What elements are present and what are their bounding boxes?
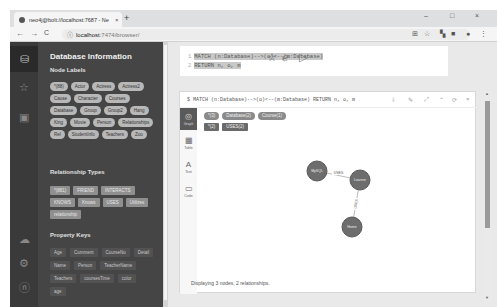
tab-close-icon[interactable]: × bbox=[115, 17, 119, 23]
legend-node-chip[interactable]: Database(2) bbox=[222, 112, 255, 120]
collapse-icon[interactable]: ⌃ bbox=[439, 96, 444, 103]
node-label-chip[interactable]: Hang bbox=[130, 106, 149, 115]
graph-icon: ◎ bbox=[185, 112, 192, 121]
new-tab-button[interactable]: + bbox=[124, 13, 129, 23]
favorites-icon[interactable]: ☆ bbox=[10, 74, 38, 100]
rel-type-chip[interactable]: Utilizes bbox=[126, 198, 149, 207]
node-label-chip[interactable]: Teachers bbox=[102, 130, 128, 139]
bookmark-star-icon[interactable]: ☆ bbox=[424, 30, 430, 38]
node-label-chip[interactable]: Person bbox=[93, 118, 115, 127]
property-key-chip[interactable]: age bbox=[50, 287, 66, 296]
extension-icon[interactable]: ▚ bbox=[440, 30, 445, 38]
legend-rel-chip[interactable]: USES(2) bbox=[222, 123, 248, 131]
close-frame-icon[interactable]: × bbox=[466, 96, 470, 102]
pin-icon[interactable]: ⤓ bbox=[392, 96, 395, 103]
legend-rel-chip[interactable]: *(2) bbox=[204, 123, 219, 131]
editor-line: 2RETURN n, o, m bbox=[188, 62, 241, 69]
tab-code[interactable]: ▭ Code bbox=[180, 180, 197, 202]
icon-sidebar: ⛁ ☆ ▣ ☁ ⚙ ⓝ bbox=[10, 42, 38, 307]
url-text: localhost:7474/browser/ bbox=[76, 32, 139, 38]
main-scroll-thumb[interactable] bbox=[485, 101, 490, 228]
back-button[interactable]: ← bbox=[16, 29, 24, 38]
node-label-chip[interactable]: Group2 bbox=[104, 106, 127, 115]
translate-icon[interactable]: ⊞ bbox=[412, 30, 418, 38]
node-label-chip[interactable]: Group bbox=[80, 106, 101, 115]
property-key-chip[interactable]: coursesTime bbox=[80, 274, 114, 283]
rel-type-chip[interactable]: USES bbox=[103, 198, 123, 207]
property-key-chip[interactable]: Person bbox=[74, 261, 96, 270]
rel-type-chip[interactable]: KNOWS bbox=[50, 198, 75, 207]
address-bar[interactable]: ⓘ localhost:7474/browser/ bbox=[62, 29, 470, 40]
node-label-chip[interactable]: Cause bbox=[50, 94, 71, 103]
reading-list-icon[interactable]: ■ bbox=[451, 30, 455, 37]
cloud-sync-icon[interactable]: ☁ bbox=[10, 226, 38, 252]
legend-node-chip[interactable]: *(3) bbox=[204, 112, 219, 120]
account-icon[interactable]: ● bbox=[466, 30, 470, 37]
neo4j-browser-app: ⛁ ☆ ▣ ☁ ⚙ ⓝ Database Information Node La… bbox=[10, 42, 497, 307]
legend-node-chip[interactable]: Course(1) bbox=[258, 112, 286, 120]
property-key-chip[interactable]: Name bbox=[50, 261, 70, 270]
rel-type-chip[interactable]: INTERACTS bbox=[101, 186, 135, 195]
view-tabs: ◎ Graph ▦ Table A Text ▭ Code bbox=[180, 108, 197, 294]
property-key-chip[interactable]: Comment bbox=[70, 248, 98, 257]
property-keys-list: Age Comment CourseNo Detail Name Person … bbox=[50, 248, 155, 296]
maximize-button[interactable]: □ bbox=[450, 12, 454, 19]
node-label-chip[interactable]: King bbox=[50, 118, 67, 127]
drawer-scroll-thumb[interactable] bbox=[164, 45, 167, 300]
minimize-button[interactable]: – bbox=[424, 12, 428, 19]
node-label-chip[interactable]: Courses bbox=[105, 94, 130, 103]
node-label-chip[interactable]: StudentInfo bbox=[68, 130, 99, 139]
result-command[interactable]: $ MATCH (n:Database)-->(o)<--(m:Database… bbox=[187, 97, 355, 103]
node-label-chip[interactable]: Actress2 bbox=[118, 82, 144, 91]
menu-icon[interactable]: ⋮ bbox=[480, 30, 487, 38]
run-query-icon[interactable]: ▷ bbox=[299, 51, 307, 64]
tab-text[interactable]: A Text bbox=[180, 156, 197, 178]
property-key-chip[interactable]: CourseNo bbox=[102, 248, 130, 257]
settings-icon[interactable]: ⚙ bbox=[10, 250, 38, 276]
graph-canvas[interactable]: USES USES MySQL Learner Home bbox=[197, 132, 477, 270]
property-key-chip[interactable]: Detail bbox=[134, 248, 154, 257]
node-label-chip[interactable]: Database bbox=[50, 106, 77, 115]
node-label-chip[interactable]: Actor bbox=[71, 82, 90, 91]
documents-icon[interactable]: ▣ bbox=[10, 104, 38, 130]
node-label-chip[interactable]: Movie bbox=[70, 118, 90, 127]
rel-type-chip[interactable]: FRIEND bbox=[73, 186, 98, 195]
node-label-chip[interactable]: Rel bbox=[50, 130, 65, 139]
property-key-chip[interactable]: Age bbox=[50, 248, 66, 257]
node-label-chip[interactable]: Relationships bbox=[118, 118, 153, 127]
relationship-types-list: *(881) FRIEND INTERACTS KNOWS Knows USES… bbox=[50, 186, 155, 219]
rel-type-chip[interactable]: *(881) bbox=[50, 186, 70, 195]
drawer-scrollbar[interactable] bbox=[163, 42, 168, 307]
property-key-chip[interactable]: Teachers bbox=[50, 274, 76, 283]
edit-icon[interactable]: ✎ bbox=[408, 96, 413, 103]
tab-graph[interactable]: ◎ Graph bbox=[180, 108, 197, 130]
database-icon[interactable]: ⛁ bbox=[10, 46, 38, 72]
cypher-editor[interactable]: 1MATCH (n:Database)-->(o)<--(m:Database)… bbox=[180, 46, 448, 76]
favorite-star-icon[interactable]: ☆ bbox=[267, 51, 277, 64]
node-labels-heading: Node Labels bbox=[50, 67, 86, 73]
site-info-icon[interactable]: ⓘ bbox=[67, 30, 73, 39]
scroll-up-icon[interactable]: ▲ bbox=[485, 91, 489, 96]
tab-table[interactable]: ▦ Table bbox=[180, 132, 197, 154]
scroll-down-icon[interactable]: ▼ bbox=[485, 295, 489, 300]
rerun-icon[interactable]: ⟳ bbox=[452, 96, 457, 103]
node-label-chip[interactable]: Zoo bbox=[131, 130, 147, 139]
about-icon[interactable]: ⓝ bbox=[10, 274, 38, 300]
line-number: 1 bbox=[188, 53, 191, 60]
rel-type-chip[interactable]: relationship bbox=[50, 210, 81, 219]
node-label-chip[interactable]: *(88) bbox=[50, 82, 68, 91]
browser-tab[interactable]: neo4j@bolt://localhost:7687 - Neo4j Brow… bbox=[14, 12, 122, 27]
clear-editor-icon[interactable]: ℯ bbox=[282, 51, 289, 64]
main-scrollbar[interactable]: ▲ ▼ bbox=[484, 91, 491, 301]
node-label-chip[interactable]: Actress bbox=[92, 82, 115, 91]
rel-type-chip[interactable]: Knows bbox=[78, 198, 100, 207]
fullscreen-icon[interactable]: ⤢ bbox=[424, 96, 429, 103]
close-window-button[interactable]: × bbox=[475, 12, 479, 19]
property-key-chip[interactable]: color bbox=[118, 274, 136, 283]
forward-button[interactable]: → bbox=[30, 29, 38, 38]
reload-button[interactable]: C bbox=[44, 29, 49, 36]
node-label-chip[interactable]: Character bbox=[74, 94, 102, 103]
property-key-chip[interactable]: TeacherName bbox=[100, 261, 136, 270]
result-frame: $ MATCH (n:Database)-->(o)<--(m:Database… bbox=[179, 91, 476, 293]
property-keys-heading: Property Keys bbox=[50, 232, 91, 238]
